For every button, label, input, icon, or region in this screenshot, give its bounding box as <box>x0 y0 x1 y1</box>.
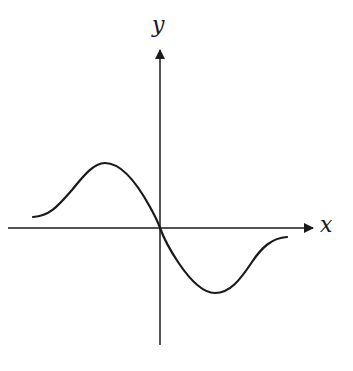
function-graph <box>0 0 353 371</box>
y-axis-label: y <box>152 14 164 36</box>
x-axis-label: x <box>320 214 332 236</box>
